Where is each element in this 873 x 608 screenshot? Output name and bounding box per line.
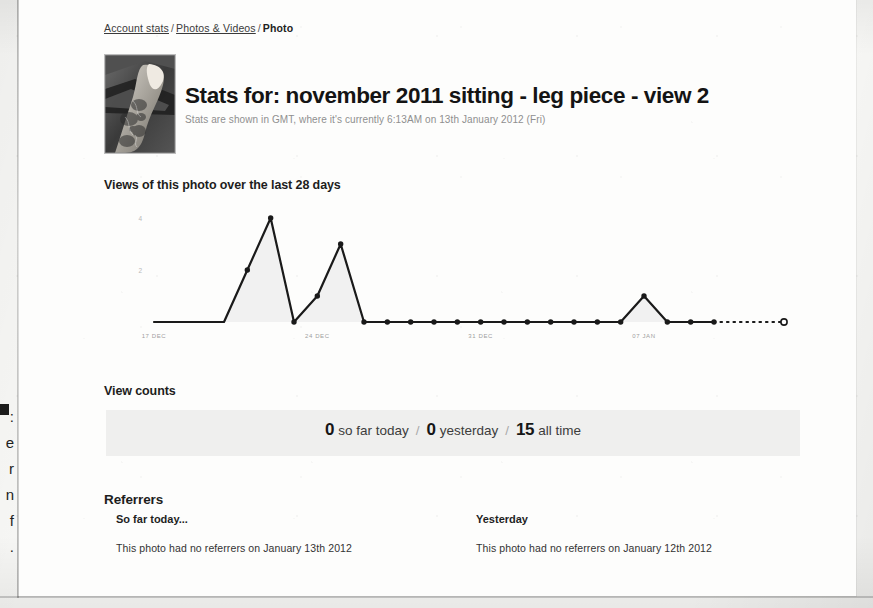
- chart-section-heading: Views of this photo over the last 28 day…: [104, 178, 341, 192]
- views-alltime-value: 15: [516, 420, 534, 439]
- view-counts-summary: 0so far today/0yesterday/15all time: [104, 420, 802, 440]
- chart-point[interactable]: [361, 319, 366, 324]
- referrers-today-message: This photo had no referrers on January 1…: [116, 542, 456, 554]
- x-axis-tick-label: 07 JAN: [632, 333, 655, 339]
- chart-point[interactable]: [315, 293, 320, 298]
- page-left-edge: [17, 0, 19, 598]
- chart-point[interactable]: [291, 319, 296, 324]
- photo-header-text: Stats for: november 2011 sitting - leg p…: [185, 83, 805, 125]
- chart-point[interactable]: [665, 319, 670, 324]
- breadcrumb-link-photos-videos[interactable]: Photos & Videos: [176, 22, 256, 34]
- margin-line: :: [0, 404, 16, 430]
- referrers-yesterday-column: Yesterday This photo had no referrers on…: [476, 513, 796, 554]
- views-chart[interactable]: 2417 DEC24 DEC31 DEC07 JAN: [122, 208, 794, 350]
- chart-point[interactable]: [431, 319, 436, 324]
- chart-point[interactable]: [501, 319, 506, 324]
- y-axis-tick-label: 4: [138, 215, 142, 222]
- chart-point[interactable]: [408, 319, 413, 324]
- x-axis-tick-label: 24 DEC: [305, 333, 330, 339]
- margin-line: r: [0, 456, 16, 482]
- breadcrumb-separator: /: [256, 22, 263, 34]
- views-alltime-label: all time: [534, 423, 581, 438]
- counts-separator: /: [409, 423, 427, 438]
- chart-point[interactable]: [338, 241, 343, 246]
- referrers-yesterday-message: This photo had no referrers on January 1…: [476, 542, 796, 554]
- margin-clipped-text: : e r n f .: [0, 404, 16, 560]
- page-bottom-edge: [0, 596, 873, 598]
- chart-point[interactable]: [245, 267, 250, 272]
- margin-line: n: [0, 482, 16, 508]
- chart-point[interactable]: [455, 319, 460, 324]
- thumbnail-image: [105, 55, 175, 153]
- chart-point[interactable]: [595, 319, 600, 324]
- views-today-label: so far today: [334, 423, 409, 438]
- breadcrumb: Account stats/Photos & Videos/Photo: [104, 22, 293, 34]
- chart-point[interactable]: [385, 319, 390, 324]
- breadcrumb-link-account-stats[interactable]: Account stats: [104, 22, 169, 34]
- y-axis-tick-label: 2: [138, 267, 142, 274]
- views-yesterday-value: 0: [426, 420, 435, 439]
- breadcrumb-separator: /: [169, 22, 176, 34]
- chart-point-today[interactable]: [781, 319, 787, 325]
- counts-separator: /: [498, 423, 516, 438]
- margin-line: .: [0, 534, 16, 560]
- views-today-value: 0: [325, 420, 334, 439]
- chart-point[interactable]: [525, 319, 530, 324]
- margin-line: f: [0, 508, 16, 534]
- photo-thumbnail[interactable]: [105, 55, 175, 153]
- views-yesterday-label: yesterday: [436, 423, 499, 438]
- margin-line: e: [0, 430, 16, 456]
- view-counts-heading: View counts: [104, 384, 176, 398]
- page-title: Stats for: november 2011 sitting - leg p…: [185, 83, 805, 109]
- views-chart-svg: 2417 DEC24 DEC31 DEC07 JAN: [122, 208, 794, 350]
- chart-point[interactable]: [711, 319, 716, 324]
- chart-point[interactable]: [268, 215, 273, 220]
- referrers-yesterday-subheading: Yesterday: [476, 513, 796, 525]
- referrers-heading: Referrers: [104, 492, 163, 507]
- page-subtitle: Stats are shown in GMT, where it's curre…: [185, 114, 805, 125]
- chart-point[interactable]: [548, 319, 553, 324]
- referrers-today-column: So far today... This photo had no referr…: [116, 513, 456, 554]
- chart-point[interactable]: [688, 319, 693, 324]
- chart-point[interactable]: [641, 293, 646, 298]
- breadcrumb-current-photo: Photo: [263, 22, 294, 34]
- chart-point[interactable]: [478, 319, 483, 324]
- x-axis-tick-label: 17 DEC: [142, 333, 167, 339]
- x-axis-tick-label: 31 DEC: [468, 333, 493, 339]
- chart-point[interactable]: [571, 319, 576, 324]
- referrers-today-subheading: So far today...: [116, 513, 456, 525]
- chart-point[interactable]: [618, 319, 623, 324]
